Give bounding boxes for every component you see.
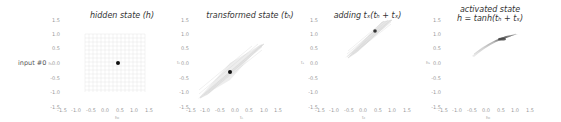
xtick: 0.0 xyxy=(98,107,112,113)
xtick: 1.0 xyxy=(127,107,141,113)
ytick: 0.0 xyxy=(46,60,60,66)
ytick: -1.0 xyxy=(46,89,60,95)
ytick: 1.0 xyxy=(427,31,441,37)
xtick: -0.5 xyxy=(342,107,356,113)
highlight-point xyxy=(116,61,120,65)
xtick: 0.5 xyxy=(242,107,256,113)
xtick: -1.5 xyxy=(55,107,69,113)
xtick: 0.0 xyxy=(356,107,370,113)
ytick: 0.0 xyxy=(304,60,318,66)
xlabel: h₀ xyxy=(486,115,490,120)
ytick: 1.5 xyxy=(427,17,441,23)
xtick: -1.0 xyxy=(198,107,212,113)
xtick: 1.0 xyxy=(385,107,399,113)
xtick: 1.5 xyxy=(400,107,414,113)
xtick: 1.5 xyxy=(523,107,537,113)
xtick: 0.0 xyxy=(228,107,242,113)
xtick: 0.5 xyxy=(494,107,508,113)
xtick: 0.0 xyxy=(479,107,493,113)
panel-title: hidden state (h) xyxy=(82,11,162,20)
xtick: -1.0 xyxy=(327,107,341,113)
xtick: -1.5 xyxy=(313,107,327,113)
ylabel: h₁ xyxy=(426,60,430,65)
ytick: -0.5 xyxy=(304,75,318,81)
ytick: 1.5 xyxy=(175,17,189,23)
panel-title-formula: h = tanh(tₕ + tₓ) xyxy=(440,14,540,23)
highlight-point xyxy=(373,29,377,33)
plot-area xyxy=(0,0,1,1)
ytick: 0.5 xyxy=(46,45,60,51)
ytick: 0.5 xyxy=(427,45,441,51)
panel-title: activated state xyxy=(440,5,540,14)
xlabel: tₕ xyxy=(240,115,243,120)
xlabel: h₀ xyxy=(115,115,119,120)
ylabel: tₕ xyxy=(177,60,180,65)
ytick: 0.5 xyxy=(175,45,189,51)
xtick: 0.5 xyxy=(113,107,127,113)
row-label-text: input #0 xyxy=(18,59,46,67)
xtick: 1.0 xyxy=(508,107,522,113)
xtick: 1.0 xyxy=(257,107,271,113)
xtick: -1.0 xyxy=(450,107,464,113)
ylabel: t₁ xyxy=(301,60,304,65)
xtick: 1.5 xyxy=(142,107,156,113)
xtick: -0.5 xyxy=(84,107,98,113)
ytick: -1.0 xyxy=(304,89,318,95)
xtick: -0.5 xyxy=(465,107,479,113)
xlabel: t₀ xyxy=(362,115,365,120)
panel-title: transformed state (tₕ) xyxy=(200,11,300,20)
ytick: -1.0 xyxy=(427,89,441,95)
ytick: -1.0 xyxy=(175,89,189,95)
ytick: 1.0 xyxy=(46,31,60,37)
ytick: 1.0 xyxy=(304,31,318,37)
ytick: 1.5 xyxy=(46,17,60,23)
ytick: 1.5 xyxy=(304,17,318,23)
ytick: -0.5 xyxy=(46,75,60,81)
panel-title: adding tₓ(tₕ + tₓ) xyxy=(325,11,410,20)
xtick: -1.0 xyxy=(69,107,83,113)
highlight-point xyxy=(228,70,232,74)
ytick: -0.5 xyxy=(175,75,189,81)
ytick: -0.5 xyxy=(427,75,441,81)
xtick: 0.5 xyxy=(371,107,385,113)
xtick: -1.5 xyxy=(436,107,450,113)
highlight-region xyxy=(498,37,506,40)
ytick: 0.5 xyxy=(304,45,318,51)
xtick: -0.5 xyxy=(213,107,227,113)
ytick: 1.0 xyxy=(175,31,189,37)
xtick: 1.5 xyxy=(271,107,285,113)
xtick: -1.5 xyxy=(184,107,198,113)
